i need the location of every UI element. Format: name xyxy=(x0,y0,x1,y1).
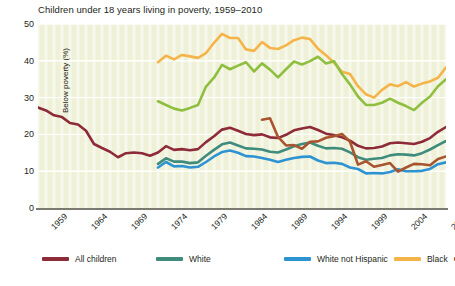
year-stripe xyxy=(284,24,287,208)
legend-color-swatch xyxy=(156,257,183,260)
year-stripe xyxy=(276,24,279,208)
year-stripe xyxy=(220,24,223,208)
year-stripe xyxy=(380,24,383,208)
x-tick-label: 2009 xyxy=(450,212,455,231)
year-stripe xyxy=(84,24,87,208)
poverty-line-chart-figure: Children under 18 years living in povert… xyxy=(0,0,455,286)
year-stripe xyxy=(260,24,263,208)
x-tick-label: 1999 xyxy=(370,212,389,231)
year-stripe xyxy=(164,24,167,208)
year-stripe xyxy=(196,24,199,208)
year-stripe xyxy=(396,24,399,208)
year-stripe xyxy=(364,24,367,208)
year-stripe xyxy=(340,24,343,208)
year-stripe xyxy=(140,24,143,208)
year-stripe xyxy=(108,24,111,208)
legend-item[interactable]: White not Hispanic xyxy=(284,252,388,266)
year-stripe xyxy=(404,24,407,208)
y-axis-title: Below poverty (%) xyxy=(61,36,70,126)
year-stripe xyxy=(372,24,375,208)
year-stripe xyxy=(212,24,215,208)
y-tick-label: 40 xyxy=(24,56,34,65)
year-stripe xyxy=(324,24,327,208)
year-stripe xyxy=(412,24,415,208)
year-stripe xyxy=(148,24,151,208)
legend-item[interactable]: Black xyxy=(394,252,448,266)
year-stripe xyxy=(300,24,303,208)
x-tick-label: 1984 xyxy=(250,212,269,231)
year-stripe xyxy=(268,24,271,208)
year-stripe xyxy=(332,24,335,208)
year-stripe xyxy=(356,24,359,208)
x-tick-label: 1989 xyxy=(290,212,309,231)
y-tick-label: 10 xyxy=(24,167,34,176)
year-stripe xyxy=(436,24,439,208)
year-stripe xyxy=(388,24,391,208)
y-tick-label: 30 xyxy=(24,93,34,102)
x-tick-label: 1979 xyxy=(210,212,229,231)
plot-area: Below poverty (%) 01020304050 xyxy=(38,24,446,208)
year-stripe xyxy=(292,24,295,208)
year-stripe xyxy=(444,24,446,208)
year-stripe xyxy=(188,24,191,208)
x-tick-label: 1964 xyxy=(90,212,109,231)
year-stripe xyxy=(38,24,40,208)
year-stripe xyxy=(156,24,159,208)
legend-label: All children xyxy=(75,255,117,264)
year-stripe xyxy=(76,24,79,208)
legend-label: Black xyxy=(427,255,448,264)
chart-title: Children under 18 years living in povert… xyxy=(38,4,262,15)
plot-canvas xyxy=(38,24,446,208)
legend-color-swatch xyxy=(394,257,421,260)
year-stripe xyxy=(44,24,47,208)
x-tick-label: 1969 xyxy=(130,212,149,231)
chart-legend: All childrenWhiteWhite not HispanicBlack… xyxy=(42,252,446,266)
year-stripe xyxy=(236,24,239,208)
legend-color-swatch xyxy=(284,257,311,260)
year-stripe xyxy=(132,24,135,208)
year-stripe xyxy=(116,24,119,208)
y-tick-label: 0 xyxy=(29,204,34,213)
x-tick-label: 1959 xyxy=(50,212,69,231)
year-stripe xyxy=(100,24,103,208)
legend-item[interactable]: White xyxy=(156,252,278,266)
legend-label: White xyxy=(189,255,211,264)
year-stripe xyxy=(420,24,423,208)
legend-item[interactable]: All children xyxy=(42,252,150,266)
y-tick-label: 20 xyxy=(24,130,34,139)
x-tick-label: 1994 xyxy=(330,212,349,231)
year-stripe xyxy=(308,24,311,208)
legend-label: White not Hispanic xyxy=(317,255,388,264)
plot-background xyxy=(38,24,446,208)
year-stripe xyxy=(244,24,247,208)
legend-color-swatch xyxy=(42,257,69,260)
year-stripe xyxy=(228,24,231,208)
x-tick-label: 1974 xyxy=(170,212,189,231)
y-tick-label: 50 xyxy=(24,20,34,29)
year-stripe xyxy=(348,24,351,208)
year-stripe xyxy=(428,24,431,208)
year-stripe xyxy=(316,24,319,208)
x-tick-label: 2004 xyxy=(410,212,429,231)
year-stripe xyxy=(180,24,183,208)
x-axis-line xyxy=(36,208,448,210)
year-stripe xyxy=(124,24,127,208)
year-stripe xyxy=(92,24,95,208)
year-stripe xyxy=(172,24,175,208)
